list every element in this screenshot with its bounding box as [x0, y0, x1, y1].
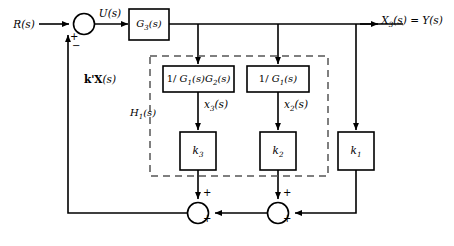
- label-block-inverse-g1: 1/ G1(s): [259, 73, 297, 86]
- sign-sum2-right: +: [203, 214, 211, 224]
- label-state2-signal: x2(s): [284, 99, 308, 112]
- sign-sum3-right: +: [283, 214, 291, 224]
- label-block-inverse-g1g2: 1/ G1(s)G2(s): [167, 73, 231, 86]
- block-diagram-canvas: R(s) + − U(s) G3(s) X3(s) = Y(s) k'X(s) …: [0, 0, 454, 246]
- label-block-plant-g3: G3(s): [136, 18, 161, 31]
- label-gain-k1: k1: [351, 145, 362, 158]
- sign-sum1-bottom: −: [72, 41, 80, 51]
- label-output-signal: X3(s) = Y(s): [381, 15, 443, 28]
- label-boundary-h1: H1(s): [130, 108, 156, 121]
- wire-feedback-to-sum1: [68, 35, 188, 213]
- label-gain-k3: k3: [193, 145, 204, 158]
- sign-sum2-top: +: [203, 188, 211, 198]
- label-feedback-signal: k'X(s): [84, 74, 116, 85]
- label-input-signal: R(s): [13, 19, 35, 30]
- sign-sum3-top: +: [283, 188, 291, 198]
- label-gain-k2: k2: [273, 145, 284, 158]
- label-state3-signal: x3(s): [204, 99, 228, 112]
- diagram-vector-layer: [0, 0, 454, 246]
- label-control-signal: U(s): [99, 8, 121, 19]
